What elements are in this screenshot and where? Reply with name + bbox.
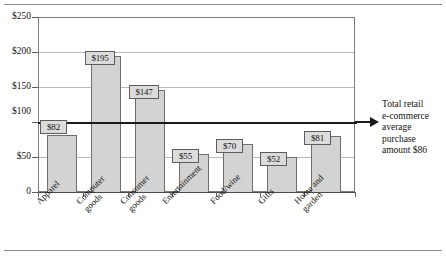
bar-value-label-consumer-goods: $147 (129, 85, 159, 99)
bar-chart: $250 $200 $150 $100 $50 0 (0, 0, 446, 262)
y-axis-label-250: $250 (0, 12, 31, 22)
annotation-line-2: e-commerce (382, 111, 444, 123)
reference-line-86 (38, 122, 357, 124)
annotation-line-1: Total retail (382, 99, 444, 111)
annotation-line-3: average (382, 122, 444, 134)
gridline-150 (39, 87, 354, 88)
reference-arrow-head (370, 117, 379, 127)
annotation-line-5: amount $86 (382, 145, 444, 157)
x-tick-7 (355, 192, 356, 197)
bar-value-label-computer-goods: $195 (85, 51, 115, 65)
bar-value-label-home-and-garden: $81 (304, 131, 331, 145)
y-axis-label-150: $150 (0, 82, 31, 92)
y-axis-label-0: 0 (0, 187, 31, 197)
annotation-line-4: purchase (382, 134, 444, 146)
reference-line-annotation: Total retail e-commerce average purchase… (382, 99, 444, 157)
y-axis-label-50: $50 (0, 152, 31, 162)
page-rule-bottom (4, 250, 442, 251)
y-axis-label-100: $100 (0, 107, 31, 117)
y-axis-label-200: $200 (0, 47, 31, 57)
bar-value-label-apparel: $82 (40, 120, 67, 134)
